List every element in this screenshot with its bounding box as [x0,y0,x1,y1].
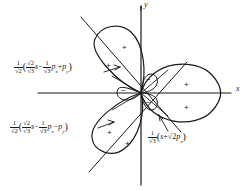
lower-left-inner-den: √3 [22,127,31,135]
upper-left-prefix-num: 1 [14,60,23,67]
right-prefix-fraction: 1 √3 [148,130,157,145]
lobe-upper-left-positive [94,26,144,93]
formula-upper-left-orbital: 1 √2 ( √2 √3 s− 1 √3 px+py) [14,58,72,75]
minus-sign-small-lobe-left: − [121,87,126,95]
lobe-lower-left-positive [92,93,143,153]
diagonal-axis-lower-left [89,62,187,172]
upper-left-inner-den: √3 [26,67,35,75]
formula-lower-left-orbital: 1 √2 ( √2 √3 s− 1 √3 px−py) [10,118,68,135]
formula-right-orbital: 1 √3 (s+√2px) [148,128,186,145]
plus-sign-right-lobe-upper: + [184,81,189,89]
lower-left-prefix-den: √2 [10,127,19,135]
orbital-figure: y x + + + + + + − − − 1 √2 ( √2 √3 s− 1 … [0,0,251,191]
upper-left-prefix-den: √2 [14,67,23,75]
plus-sign-upper-lobe-inner: + [106,62,111,70]
upper-left-inner-num: √2 [26,60,35,67]
right-close-paren: ) [182,131,185,142]
right-prefix-num: 1 [148,130,157,137]
lower-left-inner-num: √2 [22,120,31,127]
upper-left-close-paren: ) [68,61,71,72]
lower-left-prefix-num: 1 [10,120,19,127]
minus-sign-small-lobe-upper: − [146,76,151,84]
origin-hatch-3 [112,93,141,110]
lower-left-inner-fraction: √2 √3 [22,120,31,135]
plus-sign-lower-lobe-inner: + [107,129,112,137]
orbital-drawing [0,0,251,191]
upper-left-inner-fraction: √2 √3 [26,60,35,75]
upper-left-prefix-fraction: 1 √2 [14,60,23,75]
plus-sign-right-lobe-lower: + [184,104,189,112]
y-axis-label: y [144,1,148,9]
plus-sign-lower-lobe-outer: + [125,140,130,148]
plus-sign-upper-lobe-outer: + [122,44,127,52]
right-prefix-den: √3 [148,137,157,145]
lower-left-prefix-fraction: 1 √2 [10,120,19,135]
x-axis-label: x [236,85,240,93]
lower-left-close-paren: ) [64,121,67,132]
minus-sign-small-lobe-lower: − [146,99,151,107]
right-radical: √2 [168,132,176,141]
